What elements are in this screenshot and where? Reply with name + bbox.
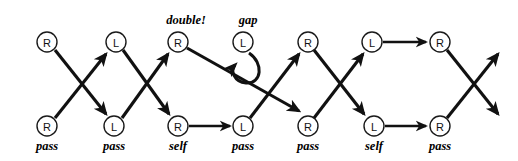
node-top-0[interactable]: R <box>37 32 57 52</box>
node-bottom-4[interactable]: R <box>298 116 318 136</box>
slot-label-6: pass <box>428 139 451 153</box>
braid-diagram-root: R L R L R L R <box>0 0 518 161</box>
node-top-1[interactable]: L <box>106 32 126 52</box>
node-top-5[interactable]: L <box>362 32 382 52</box>
node-bottom-5[interactable]: L <box>364 116 384 136</box>
braid-diagram-canvas: R L R L R L R <box>0 0 518 161</box>
node-letter: R <box>43 37 51 49</box>
node-letter: L <box>369 37 375 49</box>
self-loop-gap <box>233 53 259 83</box>
node-letter: R <box>304 121 312 133</box>
slot-label-0: pass <box>35 139 58 153</box>
node-top-6[interactable]: R <box>430 32 450 52</box>
slot-label-4: pass <box>296 139 319 153</box>
node-top-2[interactable]: R <box>168 32 188 52</box>
node-bottom-0[interactable]: R <box>37 116 57 136</box>
node-letter: R <box>43 121 51 133</box>
edge-t6-open-down <box>447 50 498 114</box>
node-letter: R <box>174 121 182 133</box>
slot-label-1: pass <box>102 139 125 153</box>
edge-double-t2-b4 <box>187 48 299 111</box>
node-letter: L <box>111 121 117 133</box>
node-bottom-1[interactable]: L <box>104 116 124 136</box>
node-bottom-6[interactable]: R <box>430 116 450 136</box>
edge-layer <box>55 42 498 126</box>
annotation-layer: double! gap <box>166 13 257 27</box>
node-letter: L <box>113 37 119 49</box>
annotation-double: double! <box>166 13 206 27</box>
node-letter: R <box>174 37 182 49</box>
node-top-4[interactable]: R <box>298 32 318 52</box>
annotation-gap: gap <box>238 13 258 27</box>
node-bottom-3[interactable]: L <box>233 116 253 136</box>
node-letter: L <box>240 121 246 133</box>
edge-b6-open-up <box>447 54 498 118</box>
edge-t4-b5 <box>314 50 364 114</box>
edge-b4-t5 <box>314 54 363 118</box>
node-letter: R <box>436 37 444 49</box>
node-letter: L <box>371 121 377 133</box>
edge-b1-t2 <box>122 54 168 118</box>
slot-label-layer: pass pass self pass pass self pass <box>35 139 451 153</box>
node-letter: R <box>304 37 312 49</box>
node-letter: L <box>240 37 246 49</box>
edge-t0-b1 <box>55 50 106 114</box>
edge-b0-t1 <box>55 54 106 118</box>
slot-label-3: pass <box>231 139 254 153</box>
node-letter: R <box>436 121 444 133</box>
node-top-3[interactable]: L <box>233 32 253 52</box>
slot-label-2: self <box>168 139 189 153</box>
slot-label-5: self <box>364 139 385 153</box>
node-bottom-2[interactable]: R <box>168 116 188 136</box>
